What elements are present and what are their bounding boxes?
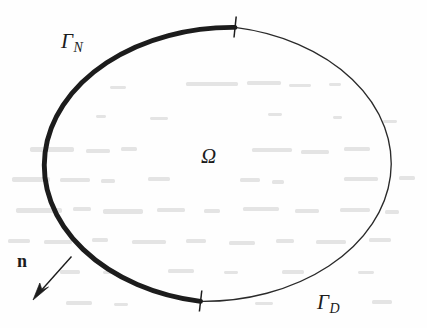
outward-normal-label: n	[17, 252, 27, 270]
outward-normal-arrow-shaft	[39, 257, 72, 294]
figure-canvas: ΓN ΓD Ω n	[0, 0, 427, 328]
domain-label: Ω	[201, 146, 216, 167]
neumann-boundary-label: ΓN	[61, 31, 83, 55]
dirichlet-subscript: D	[329, 301, 339, 316]
neumann-subscript: N	[73, 40, 82, 55]
dirichlet-gamma-symbol: Γ	[317, 290, 329, 314]
dirichlet-boundary-arc	[201, 27, 392, 301]
dirichlet-boundary-label: ΓD	[317, 292, 340, 316]
neumann-gamma-symbol: Γ	[61, 29, 73, 53]
